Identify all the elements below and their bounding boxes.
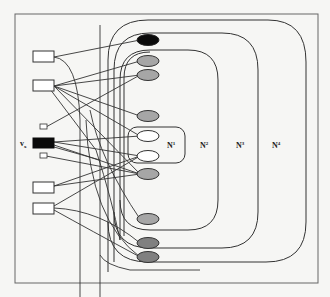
left-node-box-4[interactable]: [33, 203, 54, 214]
ellipse-node-4-gray[interactable]: [137, 111, 159, 122]
left-node-small-box-2[interactable]: [40, 153, 47, 158]
ellipse-node-7-gray[interactable]: [137, 169, 159, 180]
ellipse-node-3-gray[interactable]: [137, 70, 159, 81]
label-n2: N2: [200, 141, 209, 150]
neighborhood-diagram: vx N1 N2 N3 N4: [0, 0, 330, 297]
left-node-box-1[interactable]: [33, 51, 54, 62]
vx-label: vx: [20, 139, 27, 149]
left-node-box-3[interactable]: [33, 182, 54, 193]
ellipse-node-10-darkgray[interactable]: [137, 252, 159, 263]
ellipse-node-1-black[interactable]: [137, 35, 159, 46]
ellipse-node-5-white[interactable]: [137, 131, 159, 142]
ellipse-node-2-gray[interactable]: [137, 56, 159, 67]
label-n4: N4: [272, 141, 281, 150]
ellipse-node-9-darkgray[interactable]: [137, 238, 159, 249]
left-node-box-2[interactable]: [33, 80, 54, 91]
ellipse-node-6-white[interactable]: [137, 151, 159, 162]
left-node-small-box-1[interactable]: [40, 124, 47, 129]
label-n1: N1: [167, 141, 176, 150]
left-node-vx-box[interactable]: [33, 138, 54, 148]
ellipse-node-8-gray[interactable]: [137, 214, 159, 225]
label-n3: N3: [236, 141, 245, 150]
